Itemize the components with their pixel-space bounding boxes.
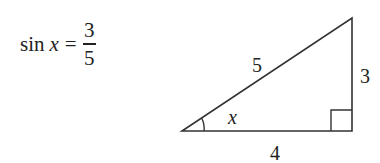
opposite-label: 3 — [360, 65, 370, 87]
hypotenuse-label: 5 — [252, 54, 262, 76]
angle-arc — [202, 118, 205, 131]
angle-label: x — [227, 106, 237, 128]
right-angle-marker — [331, 110, 352, 131]
right-triangle-diagram: 5 3 4 x — [0, 0, 380, 163]
triangle-shape — [182, 18, 352, 131]
adjacent-label: 4 — [270, 142, 280, 163]
